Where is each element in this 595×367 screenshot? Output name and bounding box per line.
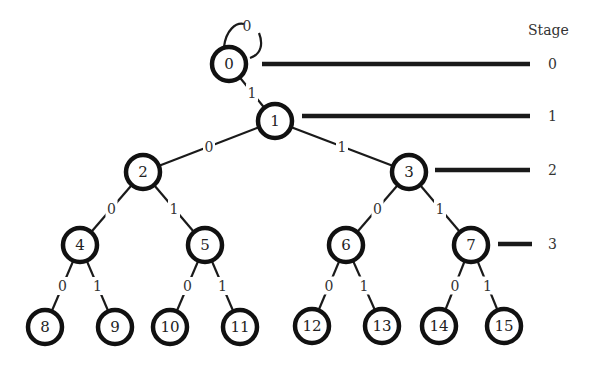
node-label: 5 [200,236,210,254]
stage-header: Stage [528,22,569,38]
stage-3: 3 [498,236,557,252]
node-label: 12 [302,317,321,335]
edge-label: 0 [373,201,382,217]
node-14: 14 [422,309,456,343]
self-loop-label: 0 [243,18,252,34]
self-loop-arc [224,24,244,47]
node-4: 4 [63,228,97,262]
node-label: 0 [224,55,234,73]
node-label: 9 [110,318,120,336]
node-15: 15 [487,309,521,343]
stage-0: 0 [262,56,557,72]
node-label: 14 [429,317,448,335]
stage-label: 2 [548,162,557,178]
edge-label: 1 [93,278,102,294]
tree-diagram: 101010101010101 Stage 0123 0 01234567891… [0,0,595,367]
node-label: 1 [270,112,280,130]
edge-label: 1 [360,278,369,294]
edge-label: 0 [451,278,460,294]
stage-1: 1 [302,108,557,124]
edge-label: 1 [170,201,179,217]
edge-1-2: 0 [143,121,275,172]
stage-label: 1 [548,108,557,124]
node-0: 0 [212,47,246,81]
node-6: 6 [329,228,363,262]
node-label: 3 [404,163,414,181]
stage-2: 2 [435,162,557,178]
node-1: 1 [258,104,292,138]
node-11: 11 [223,310,257,344]
node-label: 11 [230,318,249,336]
edge-label: 1 [218,278,227,294]
node-13: 13 [365,309,399,343]
edge-label: 1 [248,85,257,101]
node-10: 10 [153,310,187,344]
node-label: 10 [160,318,179,336]
node-label: 2 [138,163,148,181]
node-3: 3 [392,155,426,189]
edge-label: 1 [338,139,347,155]
edge-label: 1 [483,278,492,294]
node-2: 2 [126,155,160,189]
self-loop-arc-right [250,33,261,58]
stage-label: 3 [548,236,557,252]
edge-label: 0 [183,278,192,294]
edge-label: 1 [436,201,445,217]
node-label: 8 [40,318,50,336]
edge-label: 0 [205,139,214,155]
edge-1-3: 1 [275,121,409,172]
stage-label: 0 [548,56,557,72]
node-label: 15 [494,317,513,335]
node-12: 12 [295,309,329,343]
nodes-layer: 0123456789101112131415 [28,47,521,344]
node-8: 8 [28,310,62,344]
edge-label: 0 [325,278,334,294]
node-label: 7 [466,236,476,254]
node-9: 9 [98,310,132,344]
node-5: 5 [188,228,222,262]
edge-label: 0 [107,201,116,217]
node-label: 13 [372,317,391,335]
stage-indicators: Stage 0123 [262,22,569,252]
node-label: 4 [75,236,85,254]
node-7: 7 [454,228,488,262]
node-label: 6 [341,236,351,254]
edge-label: 0 [58,278,67,294]
